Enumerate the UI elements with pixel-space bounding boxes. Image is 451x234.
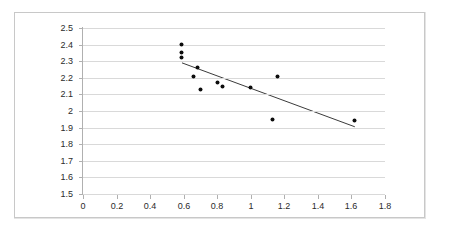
x-axis-tick [217, 195, 218, 199]
chart-page: 2.52.42.32.22.121.91.81.71.61.500.20.40.… [0, 0, 451, 234]
y-axis-label: 1.9 [47, 124, 73, 133]
gridline-horizontal [83, 177, 385, 178]
y-axis-label: 1.5 [47, 190, 73, 199]
x-axis-label: 0.8 [205, 202, 229, 211]
gridline-horizontal [83, 128, 385, 129]
x-axis-label: 1 [239, 202, 263, 211]
x-axis-tick [184, 195, 185, 199]
x-axis-label: 0 [71, 202, 95, 211]
y-axis-tick [79, 111, 83, 112]
y-axis-label: 2.5 [47, 24, 73, 33]
y-axis-label: 2.3 [47, 57, 73, 66]
y-axis-tick [79, 161, 83, 162]
chart-frame: 2.52.42.32.22.121.91.81.71.61.500.20.40.… [14, 12, 425, 218]
gridline-horizontal [83, 78, 385, 79]
x-axis-tick [251, 195, 252, 199]
x-axis-tick [117, 195, 118, 199]
data-point [271, 118, 274, 121]
data-point [192, 75, 195, 78]
x-axis-label: 0.2 [105, 202, 129, 211]
x-axis-label: 0.4 [138, 202, 162, 211]
y-axis-label: 2.4 [47, 41, 73, 50]
data-point [196, 66, 199, 69]
gridline-horizontal [83, 111, 385, 112]
y-axis-label: 1.8 [47, 140, 73, 149]
y-axis-tick [79, 144, 83, 145]
gridline-horizontal [83, 161, 385, 162]
y-axis-label: 2 [47, 107, 73, 116]
x-axis-label: 1.2 [272, 202, 296, 211]
x-axis-tick [318, 195, 319, 199]
y-axis-tick [79, 45, 83, 46]
y-axis-label: 2.2 [47, 74, 73, 83]
x-axis-tick [351, 195, 352, 199]
gridline-horizontal [83, 61, 385, 62]
plot-area [83, 28, 385, 194]
y-axis-tick [79, 78, 83, 79]
y-axis-label: 1.7 [47, 157, 73, 166]
x-axis-tick [385, 195, 386, 199]
data-point [221, 85, 224, 88]
data-point [199, 88, 202, 91]
gridline-horizontal [83, 194, 385, 195]
x-axis-tick [150, 195, 151, 199]
data-point [276, 75, 279, 78]
gridline-horizontal [83, 28, 385, 29]
gridline-horizontal [83, 45, 385, 46]
y-axis-tick [79, 28, 83, 29]
y-axis-tick [79, 177, 83, 178]
y-axis-label: 2.1 [47, 90, 73, 99]
y-axis-tick [79, 61, 83, 62]
x-axis-label: 0.6 [172, 202, 196, 211]
x-axis-tick [83, 195, 84, 199]
y-axis-tick [79, 94, 83, 95]
gridline-horizontal [83, 94, 385, 95]
gridline-horizontal [83, 144, 385, 145]
y-axis-label: 1.6 [47, 173, 73, 182]
y-axis-tick [79, 128, 83, 129]
x-axis-label: 1.6 [339, 202, 363, 211]
x-axis-tick [284, 195, 285, 199]
x-axis-label: 1.8 [373, 202, 397, 211]
x-axis-label: 1.4 [306, 202, 330, 211]
